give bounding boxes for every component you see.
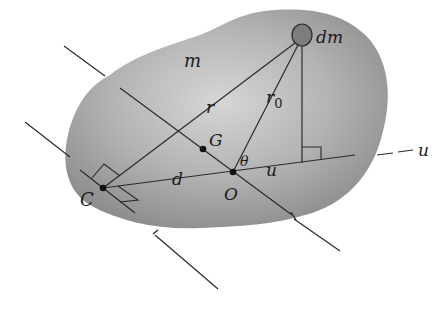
label-r: r [206,97,215,117]
point-O [230,169,237,176]
point-C [100,185,107,192]
label-theta: θ [240,153,249,169]
label-dm: dm [316,27,343,47]
dm-element [292,24,312,46]
label-G: G [209,130,223,150]
label-O: O [224,184,238,204]
parallel-axis-diagram: m dm r r0 G θ u d C O u [0,0,447,324]
label-m: m [184,50,201,71]
axis-lower-extension [153,230,218,289]
label-d: d [172,169,183,189]
u-axis-dashed-extension [377,150,413,155]
label-C: C [80,189,94,210]
label-u-outside: u [418,140,429,160]
point-G [200,146,207,153]
label-r0-subscript: 0 [274,96,282,111]
label-u-inside: u [266,160,277,180]
